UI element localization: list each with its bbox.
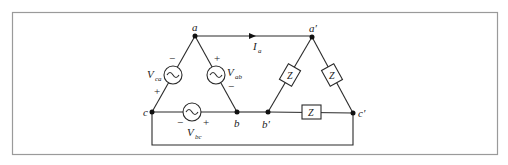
node-a-prime (310, 35, 315, 40)
source-vbc: − + V bc (177, 103, 209, 141)
node-a-label: a (192, 21, 198, 33)
vab-subscript: ab (235, 73, 243, 81)
vbc-label: V (187, 126, 195, 138)
current-subscript: a (258, 47, 262, 55)
impedance-ca-label: Z (329, 70, 335, 81)
impedance-ab: Z (279, 64, 300, 87)
circuit-diagram: − + V ca + − V ab − + V bc a c b I a Z (0, 0, 508, 165)
node-a-prime-label: a′ (309, 22, 318, 34)
node-b (235, 110, 240, 115)
node-c-prime-label: c′ (358, 107, 366, 119)
impedance-bc-label: Z (308, 107, 314, 118)
vab-label: V (227, 66, 235, 78)
figure-frame (13, 13, 498, 155)
node-c-label: c (143, 106, 148, 118)
vab-plus: + (214, 52, 220, 64)
vca-subscript: ca (155, 75, 162, 83)
impedance-ca: Z (322, 64, 343, 87)
current-arrow-icon (249, 33, 256, 39)
vca-label: V (147, 68, 155, 80)
vbc-subscript: bc (195, 133, 203, 141)
node-a (193, 34, 198, 39)
vbc-minus: − (177, 116, 183, 128)
impedance-ab-label: Z (287, 70, 293, 81)
impedance-bc: Z (302, 105, 321, 119)
vab-minus: − (228, 80, 234, 92)
vbc-plus: + (203, 116, 209, 128)
vca-plus: + (154, 85, 160, 97)
node-c-prime (351, 111, 356, 116)
source-vab: + − V ab (207, 52, 243, 92)
node-b-prime (266, 110, 271, 115)
node-b-prime-label: b′ (262, 118, 271, 130)
node-b-label: b (234, 117, 240, 129)
node-c (150, 110, 155, 115)
vca-minus: − (169, 52, 175, 64)
